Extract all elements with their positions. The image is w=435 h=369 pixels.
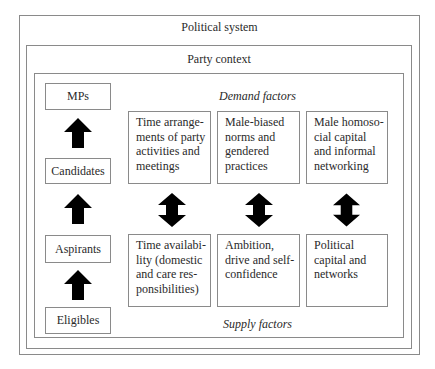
demand-factor-time-arrangements: Time arrange- ments of party activities … [128, 111, 211, 184]
double-arrow-icon [158, 193, 186, 227]
stage-aspirants: Aspirants [45, 235, 111, 263]
stage-label: Candidates [51, 164, 104, 179]
stage-eligibles: Eligibles [45, 307, 111, 334]
stage-label: Aspirants [55, 242, 101, 257]
up-arrow-icon [64, 270, 92, 300]
supply-factor-ambition: Ambition, drive and self- confidence [217, 234, 300, 307]
stage-candidates: Candidates [45, 158, 111, 184]
supply-factors-heading: Supply factors [128, 317, 387, 332]
double-arrow-icon [333, 193, 360, 227]
double-arrow-icon [245, 193, 273, 227]
supply-factor-time-availability: Time availabi- lity (domestic and care r… [128, 234, 211, 307]
demand-factor-male-biased-norms: Male-biased norms and gendered practices [217, 111, 300, 184]
stage-label: MPs [67, 89, 89, 104]
stage-mps: MPs [45, 83, 111, 110]
stage-label: Eligibles [57, 313, 100, 328]
supply-factor-political-capital: Political capital and networks [306, 234, 388, 307]
demand-factors-heading: Demand factors [128, 89, 387, 104]
demand-factor-homosocial-capital: Male homoso- cial capital and informal n… [306, 111, 388, 184]
party-context-title: Party context [26, 52, 412, 67]
up-arrow-icon [64, 194, 92, 224]
political-system-title: Political system [19, 20, 420, 35]
up-arrow-icon [64, 118, 92, 148]
